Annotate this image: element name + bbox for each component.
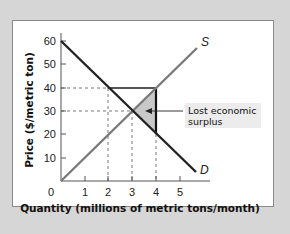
svg-text:0: 0: [48, 186, 54, 198]
svg-text:30: 30: [44, 105, 56, 117]
supply-label: S: [201, 35, 209, 49]
svg-text:2: 2: [105, 186, 111, 198]
annotation-line-1: Lost economic: [188, 105, 256, 116]
supply-demand-chart: S D Lost economic surplus 60 50 40 30 20…: [0, 0, 290, 234]
demand-label: D: [200, 163, 209, 177]
y-axis-title: Price ($/metric ton): [23, 52, 35, 168]
annotation-line-2: surplus: [188, 116, 223, 127]
x-axis-title: Quantity (millions of metric tons/month): [20, 202, 260, 214]
y-tick-labels: 60 50 40 30 20 10: [44, 35, 56, 164]
svg-text:60: 60: [44, 35, 56, 47]
x-tick-labels: 0 1 2 3 4 5: [48, 186, 183, 198]
svg-text:20: 20: [44, 128, 56, 140]
svg-text:10: 10: [44, 152, 56, 164]
svg-text:5: 5: [177, 186, 183, 198]
svg-text:4: 4: [153, 186, 159, 198]
supply-curve: [61, 48, 197, 181]
demand-curve: [61, 41, 196, 172]
svg-text:40: 40: [44, 82, 56, 94]
svg-text:1: 1: [82, 186, 88, 198]
svg-text:50: 50: [44, 58, 56, 70]
svg-text:3: 3: [129, 186, 135, 198]
